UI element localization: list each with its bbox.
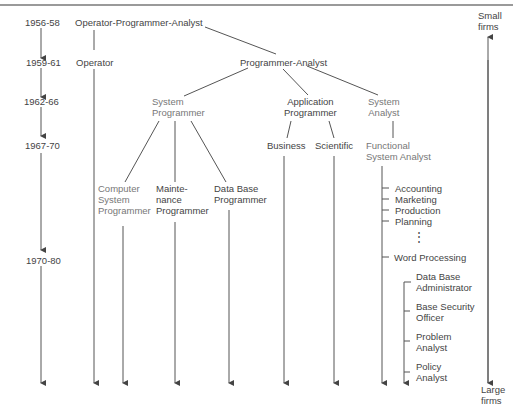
node-system-analyst: System Analyst: [368, 96, 400, 118]
functional-area-item: Marketing: [395, 194, 437, 205]
edge-opa-pa: [205, 27, 276, 54]
period-label: 1970-80: [26, 255, 61, 266]
node-operator: Operator: [76, 57, 114, 68]
node-business: Business: [267, 140, 306, 151]
functional-area-item: Production: [395, 205, 440, 216]
edge-appprog-scientific: [329, 121, 334, 138]
edge-pa-sysanalyst: [307, 66, 378, 95]
node-functional-system-analyst: Functional System Analyst: [366, 140, 431, 162]
node-programmer-analyst: Programmer-Analyst: [240, 57, 327, 68]
ellipsis-dots: ⋮: [413, 230, 425, 244]
period-label: 1967-70: [25, 140, 60, 151]
period-label: 1962-66: [24, 96, 59, 107]
small-firms-label: Small firms: [478, 10, 502, 32]
period-label: 1956-58: [25, 17, 60, 28]
node-application-programmer: Application Programmer: [284, 96, 337, 118]
edge-pa-appprog: [283, 69, 308, 95]
edge-sysprog-dbp: [191, 121, 226, 182]
node-data-base-programmer: Data Base Programmer: [214, 183, 267, 205]
period-label: 1959-61: [26, 57, 61, 68]
functional-area-item: Word Processing: [394, 252, 466, 263]
node-maintenance-programmer: Mainte- nance Programmer: [156, 183, 209, 216]
specialist-item: Policy Analyst: [416, 361, 447, 383]
specialist-item: Base Security Officer: [416, 301, 475, 323]
node-scientific: Scientific: [315, 140, 353, 151]
large-firms-label: Large firms: [481, 384, 505, 406]
functional-area-item: Accounting: [395, 183, 442, 194]
node-operator-programmer-analyst: Operator-Programmer-Analyst: [75, 17, 203, 28]
functional-area-item: Planning: [395, 216, 432, 227]
specialist-item: Data Base Administrator: [416, 271, 472, 293]
node-system-programmer: System Programmer: [152, 96, 205, 118]
edge-sysprog-csp: [125, 121, 159, 182]
specialist-item: Problem Analyst: [416, 331, 451, 353]
edge-appprog-business: [287, 121, 291, 138]
edge-pa-sysprog: [184, 68, 248, 96]
node-computer-system-programmer: Computer System Programmer: [98, 183, 151, 216]
